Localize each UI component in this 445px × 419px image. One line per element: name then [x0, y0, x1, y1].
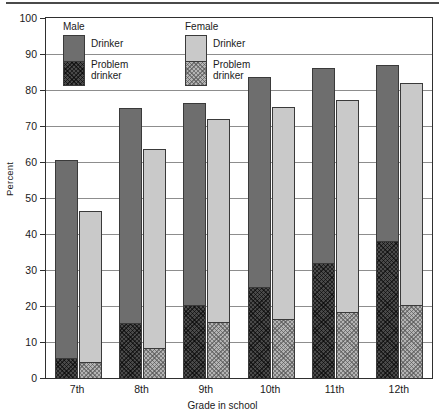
- y-tick-label-50: 50: [25, 192, 37, 204]
- bar-male-12th: [376, 65, 399, 378]
- y-tick-label-20: 20: [25, 300, 37, 312]
- bar-male-8th: [119, 108, 142, 378]
- bar-male-11th-problem-drinker-segment: [313, 263, 334, 378]
- y-tick-label-30: 30: [25, 264, 37, 276]
- gridline-80: [46, 90, 432, 91]
- bar-male-7th-drinker-segment: [56, 161, 77, 359]
- gridline-20: [46, 306, 432, 307]
- legend-label-female-problem-line1: Problem: [213, 59, 250, 70]
- gridline-60: [46, 162, 432, 163]
- legend-group-male-header: Male: [63, 21, 85, 32]
- bar-female-11th-problem-drinker-segment: [337, 312, 358, 378]
- bar-male-12th-problem-drinker-segment: [377, 241, 398, 378]
- top-rule-divider: [6, 2, 439, 4]
- bar-female-9th-drinker-segment: [208, 120, 229, 323]
- bar-male-9th-drinker-segment: [184, 104, 205, 306]
- gridline-10: [46, 342, 432, 343]
- legend-label-male-problem-line1: Problem: [91, 59, 128, 70]
- x-axis-title: Grade in school: [0, 400, 445, 411]
- bar-female-7th-problem-drinker-segment: [80, 362, 101, 378]
- x-tick-label-8th: 8th: [134, 383, 149, 395]
- bar-female-8th: [143, 149, 166, 378]
- legend-label-male-problem-line2: drinker: [91, 70, 128, 81]
- bar-female-10th-problem-drinker-segment: [273, 319, 294, 378]
- legend-label-female-drinker: Drinker: [213, 38, 245, 49]
- bar-male-11th: [312, 68, 335, 378]
- legend-swatch-male-problem-drinker: [64, 61, 84, 86]
- bar-female-10th: [272, 107, 295, 378]
- y-tick-label-100: 100: [19, 12, 37, 24]
- x-tick-label-7th: 7th: [70, 383, 85, 395]
- legend-swatch-female-drinker: [186, 36, 206, 61]
- legend-label-male-problem-drinker: Problem drinker: [91, 59, 128, 81]
- bar-male-12th-drinker-segment: [377, 66, 398, 242]
- bar-female-11th-drinker-segment: [337, 101, 358, 313]
- chart-page: Percent 0102030405060708090100 7th8th9th…: [0, 0, 445, 419]
- bar-female-8th-drinker-segment: [144, 150, 165, 348]
- bar-male-7th-problem-drinker-segment: [56, 358, 77, 378]
- gridline-50: [46, 198, 432, 199]
- legend-swatch-male: [63, 35, 85, 86]
- bar-male-9th: [183, 103, 206, 378]
- legend-label-female-problem-line2: drinker: [213, 70, 250, 81]
- bar-female-12th-drinker-segment: [401, 84, 422, 306]
- bar-female-9th: [207, 119, 230, 378]
- bar-male-9th-problem-drinker-segment: [184, 305, 205, 378]
- x-tick-label-9th: 9th: [199, 383, 214, 395]
- y-axis-title: Percent: [4, 162, 15, 196]
- y-tick-40: [40, 234, 46, 235]
- y-tick-90: [40, 54, 46, 55]
- y-tick-label-60: 60: [25, 156, 37, 168]
- bar-female-12th-problem-drinker-segment: [401, 305, 422, 378]
- y-tick-label-80: 80: [25, 84, 37, 96]
- bar-female-12th: [400, 83, 423, 378]
- bar-male-10th-drinker-segment: [249, 78, 270, 288]
- bar-male-8th-problem-drinker-segment: [120, 323, 141, 378]
- bar-male-11th-drinker-segment: [313, 69, 334, 263]
- legend-swatch-male-drinker: [64, 36, 84, 61]
- x-tick-label-11th: 11th: [325, 383, 345, 395]
- legend-group-female-header: Female: [185, 21, 218, 32]
- y-tick-30: [40, 270, 46, 271]
- y-tick-label-90: 90: [25, 48, 37, 60]
- bar-male-7th: [55, 160, 78, 378]
- y-tick-label-70: 70: [25, 120, 37, 132]
- y-tick-80: [40, 90, 46, 91]
- bar-female-10th-drinker-segment: [273, 108, 294, 320]
- bar-female-8th-problem-drinker-segment: [144, 348, 165, 378]
- bar-female-7th: [79, 211, 102, 378]
- y-tick-10: [40, 342, 46, 343]
- bar-male-8th-drinker-segment: [120, 109, 141, 324]
- gridline-40: [46, 234, 432, 235]
- y-tick-0: [40, 378, 46, 379]
- y-tick-label-40: 40: [25, 228, 37, 240]
- gridline-30: [46, 270, 432, 271]
- x-tick-label-12th: 12th: [389, 383, 409, 395]
- bar-female-11th: [336, 100, 359, 378]
- legend-swatch-female-problem-drinker: [186, 61, 206, 86]
- y-tick-100: [40, 18, 46, 19]
- x-tick-label-10th: 10th: [260, 383, 280, 395]
- y-tick-label-10: 10: [25, 336, 37, 348]
- gridline-90: [46, 54, 432, 55]
- y-tick-70: [40, 126, 46, 127]
- bar-male-10th: [248, 77, 271, 378]
- legend-label-female-problem-drinker: Problem drinker: [213, 59, 250, 81]
- bar-male-10th-problem-drinker-segment: [249, 287, 270, 378]
- bar-female-9th-problem-drinker-segment: [208, 322, 229, 378]
- legend-label-male-drinker: Drinker: [91, 38, 123, 49]
- y-tick-label-0: 0: [31, 372, 37, 384]
- y-tick-20: [40, 306, 46, 307]
- legend-swatch-female: [185, 35, 207, 86]
- y-tick-60: [40, 162, 46, 163]
- bar-female-7th-drinker-segment: [80, 212, 101, 364]
- y-tick-50: [40, 198, 46, 199]
- gridline-70: [46, 126, 432, 127]
